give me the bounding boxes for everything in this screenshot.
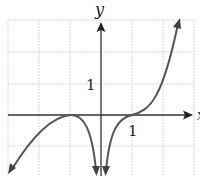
x-axis-label: x xyxy=(197,107,200,123)
x-tick-label: 1 xyxy=(128,122,138,140)
curve-arrow-bottom-center-left-icon xyxy=(92,166,100,176)
function-graph: y x 1 1 xyxy=(0,0,200,176)
curve-arrow-bottom-center-right-icon xyxy=(102,166,110,176)
curve xyxy=(12,24,178,170)
y-tick-label: 1 xyxy=(86,76,96,94)
right-branch xyxy=(106,24,178,170)
left-branch xyxy=(12,115,96,170)
y-axis-label: y xyxy=(94,0,105,19)
